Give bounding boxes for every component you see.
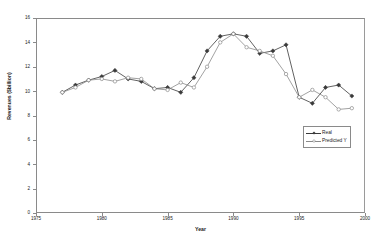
y-axis-tick-mark: [33, 116, 36, 117]
data-point-marker: [298, 96, 301, 99]
chart-title: [0, 0, 381, 3]
x-axis-tick-label: 2000: [350, 216, 380, 221]
data-point-marker: [245, 46, 248, 49]
data-point-marker: [258, 49, 261, 52]
data-point-marker: [350, 106, 353, 109]
data-point-marker: [232, 32, 235, 35]
y-axis-title: Revenues ($billion): [6, 56, 12, 136]
data-point-marker: [153, 87, 156, 90]
legend-marker-icon: [306, 138, 321, 145]
data-point-marker: [74, 86, 77, 89]
y-axis-tick-label: 16: [4, 15, 30, 20]
data-point-marker: [284, 72, 287, 75]
legend-item-predicted-y[interactable]: Predicted Y: [306, 137, 347, 145]
x-axis-tick-mark: [299, 213, 300, 216]
x-axis-title: Year: [36, 226, 365, 232]
y-axis-tick-mark: [33, 67, 36, 68]
x-axis-tick-mark: [36, 213, 37, 216]
data-point-marker: [126, 76, 129, 79]
y-axis-tick-label: 2: [4, 186, 30, 191]
y-axis-tick-label: 6: [4, 137, 30, 142]
data-point-marker: [271, 54, 274, 57]
x-axis-tick-label: 1995: [284, 216, 314, 221]
data-point-marker: [61, 91, 64, 94]
y-axis-tick-mark: [33, 18, 36, 19]
legend-item-real[interactable]: Real: [306, 129, 347, 137]
data-point-marker: [284, 43, 288, 47]
x-axis-tick-label: 1980: [87, 216, 117, 221]
data-point-marker: [140, 77, 143, 80]
chart-screenshot: 0246810121416 197519801985199019952000 R…: [0, 0, 381, 243]
x-axis-tick-mark: [102, 213, 103, 216]
x-axis-tick-mark: [168, 213, 169, 216]
data-point-marker: [179, 81, 182, 84]
data-point-marker: [113, 80, 116, 83]
data-point-marker: [337, 108, 340, 111]
x-axis-tick-label: 1985: [153, 216, 183, 221]
legend-item-label: Real: [321, 130, 332, 136]
y-axis-tick-mark: [33, 42, 36, 43]
data-point-marker: [271, 49, 275, 53]
y-axis-tick-mark: [33, 140, 36, 141]
data-point-marker: [192, 86, 195, 89]
chart-legend: RealPredicted Y: [303, 126, 351, 148]
y-axis-tick-label: 14: [4, 40, 30, 45]
legend-item-label: Predicted Y: [321, 138, 347, 144]
series-line: [62, 34, 352, 110]
data-point-marker: [87, 78, 90, 81]
data-point-marker: [324, 96, 327, 99]
x-axis-tick-label: 1975: [21, 216, 51, 221]
y-axis-tick-label: 0: [4, 210, 30, 215]
y-axis-tick-mark: [33, 189, 36, 190]
y-axis-tick-label: 4: [4, 162, 30, 167]
data-point-marker: [219, 41, 222, 44]
x-axis-tick-mark: [233, 213, 234, 216]
data-point-marker: [166, 88, 169, 91]
data-point-marker: [113, 68, 117, 72]
legend-marker-icon: [306, 130, 321, 137]
data-point-marker: [205, 65, 208, 68]
x-axis-tick-label: 1990: [218, 216, 248, 221]
series-2: [61, 32, 354, 111]
x-axis-tick-mark: [365, 213, 366, 216]
plot-area: [36, 18, 365, 213]
data-point-marker: [311, 88, 314, 91]
data-point-marker: [100, 77, 103, 80]
y-axis-tick-mark: [33, 91, 36, 92]
y-axis-tick-mark: [33, 164, 36, 165]
